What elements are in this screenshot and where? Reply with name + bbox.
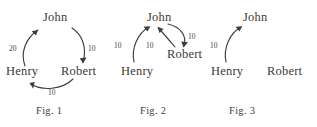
node-henry: Henry (211, 64, 243, 78)
node-robert: Robert (167, 47, 202, 61)
edge-weight-henry-john: 10 (210, 41, 218, 50)
node-robert: Robert (267, 64, 302, 78)
node-henry: Henry (6, 64, 38, 78)
edge-weight-henry-john: 10 (114, 41, 122, 50)
node-henry: Henry (121, 64, 153, 78)
node-john: John (147, 10, 171, 24)
edge-weight-henry-john: 20 (9, 44, 17, 53)
edge-weight-john-robert: 10 (188, 32, 196, 41)
figure-1-caption: Fig. 1 (36, 105, 62, 117)
node-john: John (43, 10, 67, 24)
node-robert: Robert (61, 64, 96, 78)
figure-2-caption: Fig. 2 (140, 105, 166, 117)
figure-2: John Henry Robert 10 10 10 Fig. 2 (105, 0, 210, 127)
edge-weight-robert-john: 10 (146, 41, 154, 50)
figure-1: John Henry Robert 20 10 10 Fig. 1 (0, 0, 110, 127)
figure-panel: John Henry Robert 20 10 10 Fig. 1 (0, 0, 317, 127)
edge-john-to-robert (72, 28, 87, 64)
edge-robert-to-john (157, 27, 175, 47)
node-john: John (243, 10, 267, 24)
edge-weight-john-robert: 10 (88, 44, 96, 53)
edge-weight-robert-henry: 10 (48, 88, 56, 97)
figure-3: John Henry Robert 10 Fig. 3 (205, 0, 317, 127)
figure-3-caption: Fig. 3 (229, 105, 255, 117)
edge-henry-to-john (225, 26, 242, 62)
edge-john-to-robert (168, 24, 188, 48)
edge-henry-to-john (23, 30, 38, 66)
